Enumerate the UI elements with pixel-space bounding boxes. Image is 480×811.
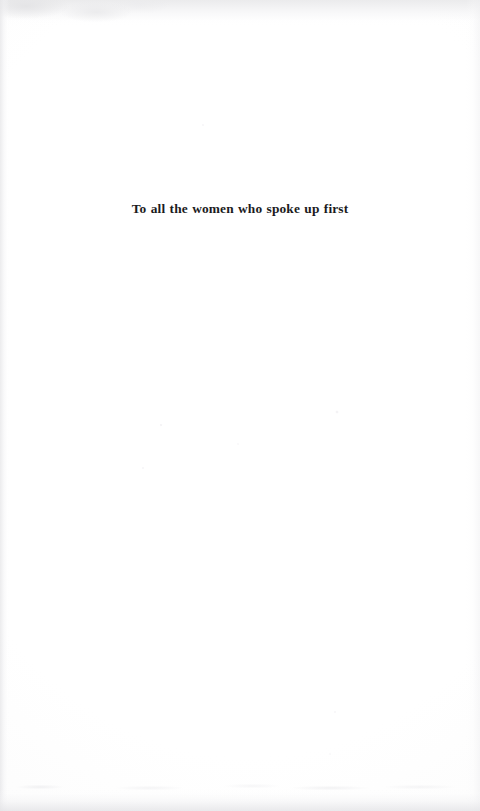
page-canvas: To all the women who spoke up first [0,0,480,811]
paper-background [0,0,480,811]
dedication-block: To all the women who spoke up first [0,199,480,217]
dedication-text: To all the women who spoke up first [132,200,348,217]
